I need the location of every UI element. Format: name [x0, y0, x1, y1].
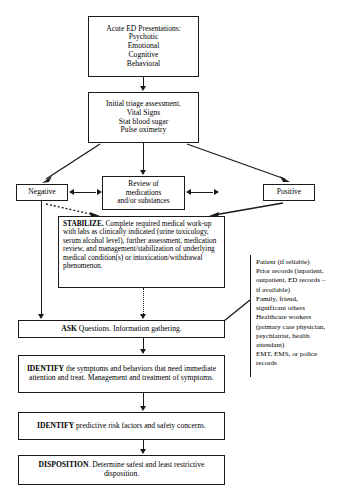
stabilize-text: Complete required medical work-up with l…: [63, 219, 216, 270]
arrowhead-review-to-positive: [214, 189, 219, 195]
source-line-6: Healthcare workers: [256, 313, 356, 322]
source-line-8: psychiatrist, health: [256, 332, 356, 341]
source-line-5: significant others: [256, 304, 356, 313]
arrowhead-positive-to-review: [186, 189, 191, 195]
source-line-0: Patient (if reliable): [256, 258, 356, 267]
arrowhead-identify-symptoms-to-identify-risk: [140, 406, 146, 411]
disposition-body: DISPOSITION. Determine safest and least …: [25, 461, 218, 479]
source-line-9: attendant): [256, 341, 356, 350]
node-negative: Negative: [16, 184, 68, 201]
identify-risk-emphasis: IDENTIFY: [37, 421, 74, 430]
arrowhead-negative-to-ask: [38, 314, 44, 319]
node-acute-presentations: Acute ED Presentations: Psychotic Emotio…: [88, 16, 199, 77]
node-identify-symptoms: IDENTIFY the symptoms and behaviors that…: [18, 355, 225, 393]
connector-stabilize-to-ask: [143, 288, 144, 314]
connector-review-positive: [191, 192, 213, 193]
negative-label: Negative: [28, 188, 55, 197]
identify-risk-text: predictive risk factors and safety conce…: [74, 421, 206, 430]
node-identify-risk: IDENTIFY predictive risk factors and saf…: [18, 412, 225, 440]
arrowhead-triage-to-review: [140, 170, 146, 175]
connector-identify-symptoms-to-identify-risk: [143, 393, 144, 406]
connector-identify-risk-to-disposition: [143, 440, 144, 449]
connector-acute-to-triage: [143, 77, 144, 86]
arrowhead-ask-to-identify-symptoms: [140, 349, 146, 354]
flowchart-canvas: Acute ED Presentations: Psychotic Emotio…: [0, 0, 358, 493]
ask-emphasis: ASK: [61, 324, 77, 333]
node-ask: ASK Questions. Information gathering.: [18, 320, 225, 338]
connector-negative-review: [74, 192, 96, 193]
arrowhead-identify-risk-to-disposition: [140, 449, 146, 454]
connector-negative-to-ask: [41, 201, 42, 314]
information-sources-rule: [250, 255, 251, 377]
triage-line-3: Pulse oximetry: [121, 126, 167, 135]
source-line-7: (primary care physician,: [256, 323, 356, 332]
stabilize-body: STABILIZE. Complete required medical wor…: [63, 220, 220, 271]
node-positive: Positive: [263, 184, 315, 201]
disposition-emphasis: DISPOSITION: [39, 460, 89, 469]
arrowhead-review-to-negative: [69, 189, 74, 195]
node-stabilize: STABILIZE. Complete required medical wor…: [58, 216, 225, 288]
disposition-text: . Determine safest and least restrictive…: [88, 460, 204, 478]
acute-line-4: Behavioral: [127, 60, 160, 69]
connector-ask-to-identify-symptoms: [143, 338, 144, 349]
arrowhead-acute-to-triage: [140, 86, 146, 91]
review-line-2: and/or substances: [117, 197, 169, 206]
identify-symptoms-body: IDENTIFY the symptoms and behaviors that…: [25, 365, 218, 383]
positive-label: Positive: [277, 188, 301, 197]
source-line-1: Prior records (inpatient,: [256, 267, 356, 276]
source-line-4: Family, friend,: [256, 295, 356, 304]
source-line-3: if available): [256, 286, 356, 295]
source-line-11: records: [256, 359, 356, 368]
connector-triage-to-review: [143, 143, 144, 170]
source-line-2: outpatient, ED records –: [256, 276, 356, 285]
source-line-10: EMT, EMS, or police: [256, 350, 356, 359]
information-sources-list: Patient (if reliable) Prior records (inp…: [256, 258, 356, 369]
node-disposition: DISPOSITION. Determine safest and least …: [18, 455, 225, 485]
identify-symptoms-emphasis: IDENTIFY: [27, 364, 64, 373]
ask-body: ASK Questions. Information gathering.: [61, 325, 181, 334]
ask-text: Questions. Information gathering.: [77, 324, 182, 333]
identify-risk-body: IDENTIFY predictive risk factors and saf…: [37, 422, 206, 431]
arrowhead-stabilize-to-ask: [140, 314, 146, 319]
node-initial-triage: Initial triage assessment. Vital Signs S…: [88, 92, 199, 143]
node-review-medications: Review of medications and/or substances: [102, 176, 185, 210]
